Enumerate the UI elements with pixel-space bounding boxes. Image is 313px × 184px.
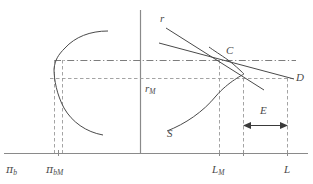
point-label-C: C xyxy=(226,45,233,56)
axis-label-L: L xyxy=(284,164,290,175)
diagram-canvas xyxy=(0,0,313,184)
curve-label-r: r xyxy=(160,13,164,24)
axis-label-r-M: rM xyxy=(145,83,156,94)
axis-label-pi-bM: πbM xyxy=(46,164,63,175)
annotation-label-E: E xyxy=(260,105,267,116)
arrow-E xyxy=(243,122,288,129)
line-r xyxy=(166,28,264,90)
economic-diagram-figure: πb πbM LM L rM r S C D E xyxy=(0,0,313,184)
curve-S xyxy=(167,47,244,131)
curve-label-S: S xyxy=(167,128,173,139)
point-label-D: D xyxy=(296,72,304,83)
curve-profit-lower xyxy=(54,69,103,135)
axis-label-pi-b: πb xyxy=(6,164,17,175)
axis-label-L-M: LM xyxy=(212,164,224,175)
